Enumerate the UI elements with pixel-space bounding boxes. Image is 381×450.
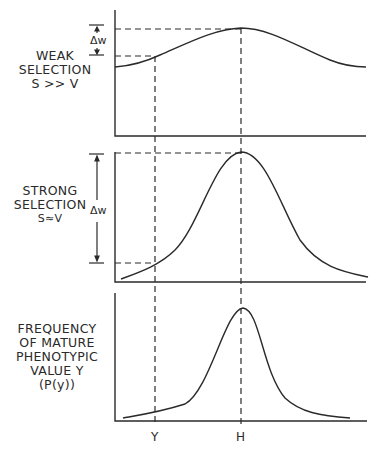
label-line: STRONG bbox=[8, 184, 92, 198]
strong-fitness-curve bbox=[121, 152, 368, 279]
label-line: (P(y)) bbox=[12, 378, 102, 392]
label-line: S≈V bbox=[8, 212, 92, 226]
frequency-curve bbox=[123, 308, 350, 418]
label-line: OF MATURE bbox=[12, 336, 102, 350]
label-line: SELECTION bbox=[14, 63, 96, 77]
x-label-h: H bbox=[236, 430, 245, 444]
label-line: S >> V bbox=[14, 77, 96, 91]
label-line: WEAK bbox=[14, 49, 96, 63]
x-label-y: Y bbox=[151, 430, 158, 444]
weak-delta-w-label: Δw bbox=[90, 34, 107, 47]
weak-selection-label: WEAK SELECTION S >> V bbox=[14, 49, 96, 91]
label-line: SELECTION bbox=[8, 198, 92, 212]
label-line: FREQUENCY bbox=[12, 322, 102, 336]
label-line: PHENOTYPIC bbox=[12, 350, 102, 364]
frequency-label: FREQUENCY OF MATURE PHENOTYPIC VALUE Y (… bbox=[12, 322, 102, 392]
label-line: VALUE Y bbox=[12, 364, 102, 378]
strong-selection-label: STRONG SELECTION S≈V bbox=[8, 184, 92, 226]
strong-delta-w-label: Δw bbox=[90, 204, 107, 217]
